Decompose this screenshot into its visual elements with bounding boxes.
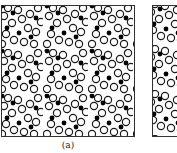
lattice-diagram-a [2,6,134,136]
panel-a-caption: (a) [58,140,78,150]
figure-panel-a [1,5,135,137]
figure-panel-b [152,5,177,137]
lattice-diagram-b [153,6,177,136]
